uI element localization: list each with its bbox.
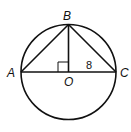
length-label-oc: 8 <box>86 60 92 71</box>
label-b: B <box>63 10 71 22</box>
label-o: O <box>64 76 73 88</box>
right-angle-marker <box>58 62 69 72</box>
label-c: C <box>120 67 129 79</box>
geometry-diagram: B A C O 8 <box>0 0 131 132</box>
label-a: A <box>7 67 15 79</box>
